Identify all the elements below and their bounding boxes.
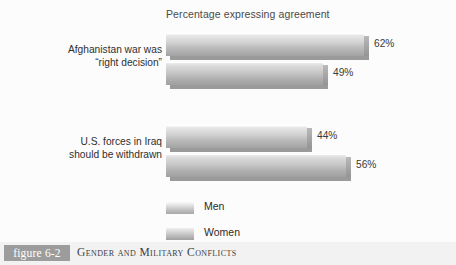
legend-label-women: Women: [204, 226, 240, 238]
bar-highlight: [166, 33, 364, 34]
figure-caption-text: Gender and Military Conflicts: [77, 246, 237, 258]
bar-value-label: 44%: [317, 130, 337, 141]
category-label-line: Afghanistan war was: [12, 44, 162, 57]
bar-bottom-face: [170, 148, 312, 152]
bar-face: [166, 154, 346, 177]
bar-women[interactable]: [166, 154, 346, 177]
legend-label-men: Men: [204, 200, 224, 212]
bar-men[interactable]: [166, 125, 307, 148]
figure-container: Percentage expressing agreement Afghanis…: [0, 0, 456, 265]
figure-number-text: figure 6-2: [4, 245, 70, 261]
bar-highlight: [166, 125, 307, 126]
legend-swatch-women: [166, 228, 194, 240]
figure-number-badge: figure 6-2: [4, 245, 70, 261]
bar-face: [166, 33, 364, 56]
bar-value-label: 49%: [333, 67, 353, 78]
category-group: U.S. forces in Iraq should be withdrawn …: [0, 120, 456, 182]
legend-item-men[interactable]: Men: [166, 200, 326, 218]
bar-men[interactable]: [166, 33, 364, 56]
chart-title: Percentage expressing agreement: [166, 8, 330, 20]
category-label: U.S. forces in Iraq should be withdrawn: [12, 136, 162, 161]
legend-swatch-men: [166, 202, 194, 214]
bar-bottom-face: [170, 177, 351, 181]
bar-women[interactable]: [166, 62, 323, 85]
category-label-line: “right decision”: [12, 57, 162, 70]
bar-bottom-face: [170, 56, 369, 60]
bar-bottom-face: [170, 85, 328, 89]
figure-caption-band: figure 6-2 Gender and Military Conflicts: [0, 242, 456, 265]
category-label-line: U.S. forces in Iraq: [12, 136, 162, 149]
category-label: Afghanistan war was “right decision”: [12, 44, 162, 69]
bar-highlight: [166, 154, 346, 155]
plot-area: Afghanistan war was “right decision” 62%: [0, 28, 456, 188]
bar-value-label: 62%: [374, 38, 394, 49]
legend: Men Women: [166, 200, 326, 244]
category-group: Afghanistan war was “right decision” 62%: [0, 28, 456, 90]
bar-highlight: [166, 62, 323, 63]
category-label-line: should be withdrawn: [12, 149, 162, 162]
bar-value-label: 56%: [356, 159, 376, 170]
bar-face: [166, 125, 307, 148]
bar-face: [166, 62, 323, 85]
